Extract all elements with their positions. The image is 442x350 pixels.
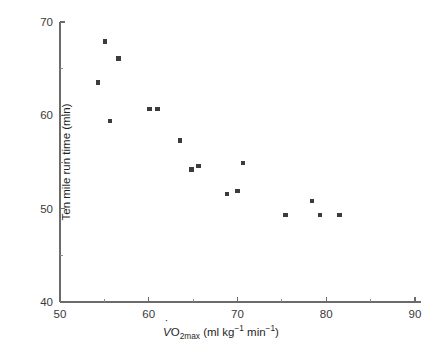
- x-title-mid: min: [244, 326, 266, 338]
- data-point: [147, 107, 151, 111]
- v-dot-symbol: V: [163, 326, 171, 338]
- data-point: [310, 199, 314, 203]
- y-axis-title-container: Ten mile run time (min): [60, 12, 76, 312]
- data-point: [337, 213, 341, 217]
- x-title-close: ): [275, 326, 279, 338]
- data-point-series: [96, 39, 342, 217]
- x-title-sup-kg: −1: [234, 324, 243, 333]
- data-point: [189, 167, 193, 171]
- x-title-o: O: [171, 326, 180, 338]
- y-tick-label: 70: [40, 16, 53, 28]
- x-axis-title: VO2max (ml kg−1 min−1): [0, 324, 442, 341]
- scatter-plot-figure: 5060708090 40506070 VO2max (ml kg−1 min−…: [0, 0, 442, 350]
- y-axis-title: Ten mile run time (min): [60, 12, 72, 312]
- data-point: [318, 213, 322, 217]
- y-tick-label: 40: [40, 296, 53, 308]
- y-axis-tick-labels: 40506070: [40, 16, 53, 308]
- x-tick-label: 70: [231, 308, 244, 320]
- y-tick-label: 60: [40, 109, 53, 121]
- x-axis-tick-labels: 5060708090: [54, 308, 422, 320]
- data-point: [96, 80, 100, 84]
- data-point: [178, 138, 182, 142]
- x-title-subscript: 2max: [180, 332, 200, 341]
- data-point: [283, 213, 287, 217]
- y-tick-label: 50: [40, 203, 53, 215]
- axes: [60, 22, 421, 302]
- x-tick-label: 90: [409, 308, 422, 320]
- x-tick-label: 60: [142, 308, 155, 320]
- data-point: [108, 119, 112, 123]
- data-point: [225, 192, 229, 196]
- x-title-sup-min: −1: [266, 324, 275, 333]
- data-point: [196, 164, 200, 168]
- data-point: [155, 107, 159, 111]
- x-title-open: (ml kg: [200, 326, 235, 338]
- data-point: [103, 39, 107, 43]
- x-tick-label: 80: [320, 308, 333, 320]
- data-point: [241, 161, 245, 165]
- data-point: [116, 56, 120, 60]
- x-axis-ticks: [60, 297, 415, 302]
- data-point: [235, 189, 239, 193]
